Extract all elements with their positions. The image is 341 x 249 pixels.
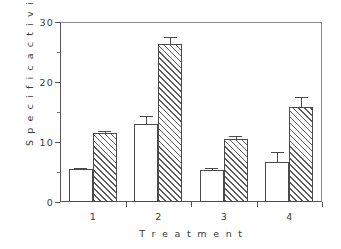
bar (200, 170, 224, 202)
bar (265, 162, 289, 202)
error-bar-cap (164, 37, 177, 38)
bar (224, 139, 248, 202)
y-axis-tick-label: 30 (40, 17, 55, 28)
y-axis-tick (55, 202, 60, 203)
error-bar-cap (74, 168, 87, 169)
error-bar-cap (205, 168, 218, 169)
bar (69, 169, 93, 202)
y-axis-tick-label: 20 (40, 77, 55, 88)
bar-chart-figure: S p e c i f i c a c t i v i t y 01020301… (0, 0, 341, 249)
error-bar-cap (229, 136, 242, 137)
x-axis-tick (126, 202, 127, 207)
error-bar-stem (146, 116, 147, 124)
x-axis-label: T r e a t m e n t (60, 228, 323, 239)
x-axis-tick-label: 1 (90, 211, 96, 222)
y-axis-minor-tick (57, 172, 60, 173)
plot-area: 01020301234 (60, 22, 322, 202)
error-bar-cap (271, 152, 284, 153)
error-bar-cap (98, 131, 111, 132)
x-axis-tick (257, 202, 258, 207)
error-bar-cap (295, 97, 308, 98)
y-axis-tick (55, 82, 60, 83)
x-axis-tick (191, 202, 192, 207)
y-axis-tick (55, 22, 60, 23)
x-axis-tick (322, 202, 323, 207)
y-axis-minor-tick (57, 112, 60, 113)
y-axis-minor-tick (57, 52, 60, 53)
bar (289, 107, 313, 202)
x-axis-tick-label: 2 (155, 211, 161, 222)
y-axis-tick (55, 142, 60, 143)
bar (93, 133, 117, 202)
error-bar-stem (170, 37, 171, 44)
error-bar-cap (140, 116, 153, 117)
y-axis-label: S p e c i f i c a c t i v i t y (24, 0, 35, 148)
error-bar-stem (277, 152, 278, 162)
bar (158, 44, 182, 202)
x-axis-tick-label: 3 (221, 211, 227, 222)
y-axis-tick-label: 0 (47, 197, 54, 208)
x-axis-tick-label: 4 (286, 211, 292, 222)
y-axis-tick-label: 10 (40, 137, 55, 148)
bar (134, 124, 158, 202)
error-bar-stem (301, 97, 302, 107)
